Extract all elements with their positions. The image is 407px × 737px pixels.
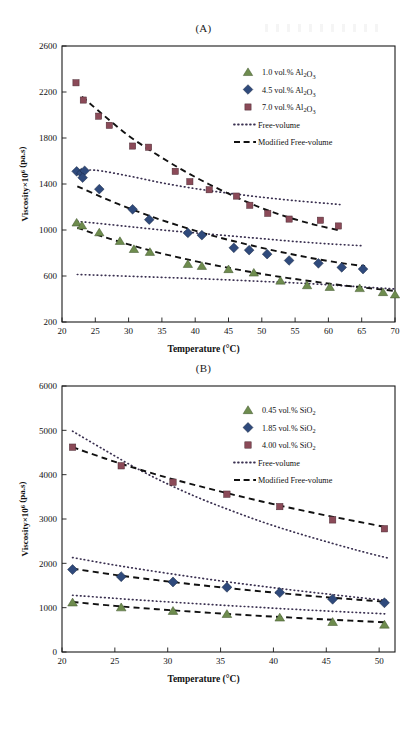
svg-text:4.00 vol.% SiO2: 4.00 vol.% SiO2 xyxy=(262,441,316,451)
svg-text:5000: 5000 xyxy=(39,426,58,436)
svg-text:6000: 6000 xyxy=(39,381,58,391)
svg-text:25: 25 xyxy=(110,656,120,666)
svg-text:50: 50 xyxy=(257,326,267,336)
svg-text:Free-volume: Free-volume xyxy=(258,121,300,130)
svg-text:1400: 1400 xyxy=(39,179,58,189)
panel-b-label: (B) xyxy=(0,362,407,374)
panel-a-chart: 2025303540455055606570200600100014001800… xyxy=(0,34,407,344)
svg-text:65: 65 xyxy=(357,326,367,336)
svg-text:4000: 4000 xyxy=(39,470,58,480)
panel-b-plot: 202530354045500100020003000400050006000V… xyxy=(0,374,407,674)
svg-text:20: 20 xyxy=(58,326,68,336)
svg-text:35: 35 xyxy=(216,656,226,666)
svg-text:20: 20 xyxy=(58,656,68,666)
figure-page: (A) 202530354045505560657020060010001400… xyxy=(0,22,407,737)
svg-text:40: 40 xyxy=(191,326,201,336)
svg-text:30: 30 xyxy=(124,326,134,336)
svg-text:Viscosity×106 (pa.s): Viscosity×106 (pa.s) xyxy=(17,481,30,556)
panel-a-xaxis-title: Temperature (°C) xyxy=(0,344,407,354)
svg-text:2600: 2600 xyxy=(39,41,58,51)
svg-text:60: 60 xyxy=(324,326,334,336)
svg-text:45: 45 xyxy=(322,656,332,666)
svg-text:200: 200 xyxy=(44,317,58,327)
svg-text:70: 70 xyxy=(391,326,401,336)
svg-text:40: 40 xyxy=(269,656,279,666)
svg-text:Free-volume: Free-volume xyxy=(258,459,300,468)
panel-b-xaxis-title: Temperature (°C) xyxy=(0,674,407,684)
panel-a-plot: 2025303540455055606570200600100014001800… xyxy=(0,34,407,344)
svg-text:1800: 1800 xyxy=(39,133,58,143)
svg-text:600: 600 xyxy=(44,271,58,281)
svg-text:1.85 vol.% SiO2: 1.85 vol.% SiO2 xyxy=(262,424,316,434)
svg-text:2000: 2000 xyxy=(39,559,58,569)
svg-text:35: 35 xyxy=(157,326,167,336)
svg-text:Modified Free-volume: Modified Free-volume xyxy=(258,476,333,485)
svg-text:55: 55 xyxy=(291,326,301,336)
svg-text:45: 45 xyxy=(224,326,234,336)
svg-text:3000: 3000 xyxy=(39,514,58,524)
svg-text:1000: 1000 xyxy=(39,225,58,235)
svg-text:0.45 vol.% SiO2: 0.45 vol.% SiO2 xyxy=(262,406,316,416)
svg-text:Viscosity×106 (pa.s): Viscosity×106 (pa.s) xyxy=(17,146,30,221)
svg-text:25: 25 xyxy=(91,326,101,336)
svg-text:Modified Free-volume: Modified Free-volume xyxy=(258,138,333,147)
panel-b-chart: 202530354045500100020003000400050006000V… xyxy=(0,374,407,674)
scan-artifact xyxy=(265,24,385,32)
svg-text:50: 50 xyxy=(375,656,385,666)
svg-text:1000: 1000 xyxy=(39,603,58,613)
svg-text:2200: 2200 xyxy=(39,87,58,97)
svg-text:0: 0 xyxy=(53,647,58,657)
svg-text:30: 30 xyxy=(163,656,173,666)
